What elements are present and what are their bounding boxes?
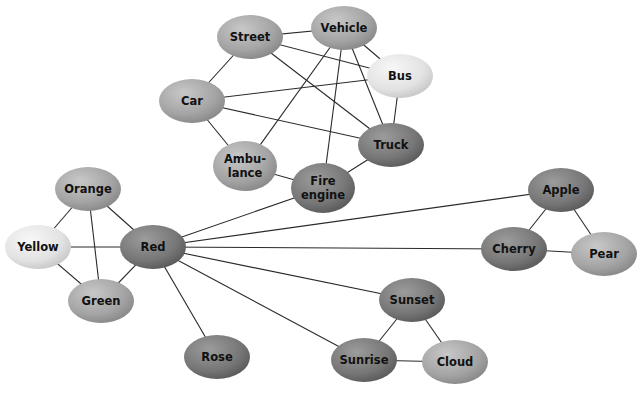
edge-red-cherry xyxy=(153,247,514,249)
node-orange: Orange xyxy=(55,167,121,211)
node-label: Ambu- xyxy=(224,152,266,166)
node-label: Vehicle xyxy=(321,21,368,35)
semantic-network-diagram: StreetVehicleBusCarTruckAmbu-lanceFireen… xyxy=(0,0,641,395)
node-label: Bus xyxy=(388,69,412,83)
node-label: Fire xyxy=(310,174,335,188)
node-label: Car xyxy=(181,94,203,108)
node-label: Rose xyxy=(201,350,233,364)
node-label: Green xyxy=(82,294,121,308)
node-label: Truck xyxy=(374,138,409,152)
node-pear: Pear xyxy=(571,232,637,276)
node-label: Yellow xyxy=(16,240,59,254)
node-label: Orange xyxy=(64,182,112,196)
node-cloud: Cloud xyxy=(422,340,488,384)
node-label: Cloud xyxy=(437,355,474,369)
node-label: Street xyxy=(230,30,271,44)
node-label: Sunrise xyxy=(340,353,389,367)
node-label: engine xyxy=(301,188,345,202)
node-label: lance xyxy=(228,166,263,180)
node-cherry: Cherry xyxy=(481,227,547,271)
node-rose: Rose xyxy=(184,335,250,379)
node-label: Sunset xyxy=(390,293,435,307)
node-label: Cherry xyxy=(492,242,536,256)
node-label: Apple xyxy=(542,183,579,197)
node-red: Red xyxy=(120,225,186,269)
node-ambulance: Ambu-lance xyxy=(213,141,277,191)
node-green: Green xyxy=(68,279,134,323)
node-street: Street xyxy=(217,15,283,59)
node-label: Red xyxy=(141,240,166,254)
node-yellow: Yellow xyxy=(5,225,71,269)
node-label: Pear xyxy=(589,247,619,261)
node-apple: Apple xyxy=(528,168,594,212)
node-sunset: Sunset xyxy=(379,278,445,322)
node-bus: Bus xyxy=(367,54,433,98)
cut-off-caption xyxy=(0,388,641,395)
node-car: Car xyxy=(159,79,225,123)
nodes-layer: StreetVehicleBusCarTruckAmbu-lanceFireen… xyxy=(5,6,637,384)
edge-red-sunrise xyxy=(153,247,364,360)
node-fire-engine: Fireengine xyxy=(291,163,355,213)
node-vehicle: Vehicle xyxy=(311,6,377,50)
node-truck: Truck xyxy=(358,123,424,167)
edge-red-sunset xyxy=(153,247,412,300)
node-sunrise: Sunrise xyxy=(331,338,397,382)
